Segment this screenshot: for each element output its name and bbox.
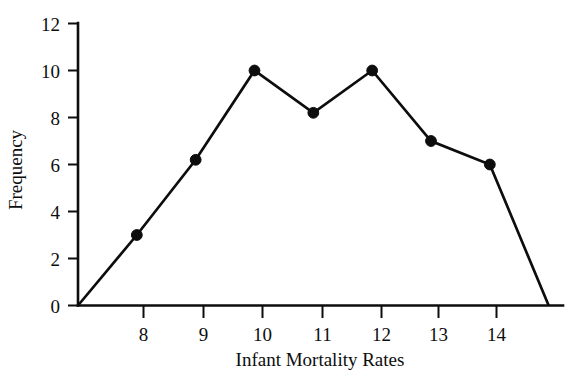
y-tick-label-0: 0 bbox=[51, 296, 61, 317]
data-point bbox=[308, 107, 319, 118]
data-point bbox=[426, 136, 437, 147]
data-point bbox=[367, 65, 378, 76]
y-tick-label-2: 2 bbox=[51, 249, 61, 270]
frequency-line bbox=[78, 71, 549, 306]
x-tick-label-11: 11 bbox=[313, 324, 331, 345]
data-point bbox=[131, 230, 142, 241]
x-axis-title: Infant Mortality Rates bbox=[236, 349, 405, 370]
data-point bbox=[484, 159, 495, 170]
y-tick-label-4: 4 bbox=[51, 202, 61, 223]
y-axis-title: Frequency bbox=[5, 129, 26, 210]
y-axis-ticks bbox=[68, 24, 78, 306]
data-point bbox=[190, 154, 201, 165]
data-point bbox=[249, 65, 260, 76]
x-tick-label-8: 8 bbox=[139, 324, 149, 345]
y-tick-label-12: 12 bbox=[41, 14, 60, 35]
x-axis-ticks bbox=[144, 306, 497, 319]
y-tick-label-6: 6 bbox=[51, 155, 61, 176]
frequency-markers bbox=[131, 65, 495, 240]
x-tick-label-13: 13 bbox=[429, 324, 448, 345]
frequency-polygon-chart: 12 10 8 6 4 2 0 8 9 10 11 12 13 14 Infan… bbox=[0, 0, 578, 391]
x-tick-label-10: 10 bbox=[253, 324, 272, 345]
y-tick-label-8: 8 bbox=[51, 108, 61, 129]
y-tick-label-10: 10 bbox=[41, 61, 60, 82]
x-tick-label-9: 9 bbox=[199, 324, 209, 345]
x-tick-label-14: 14 bbox=[487, 324, 507, 345]
x-tick-label-12: 12 bbox=[372, 324, 391, 345]
chart-canvas: 12 10 8 6 4 2 0 8 9 10 11 12 13 14 Infan… bbox=[0, 0, 578, 391]
